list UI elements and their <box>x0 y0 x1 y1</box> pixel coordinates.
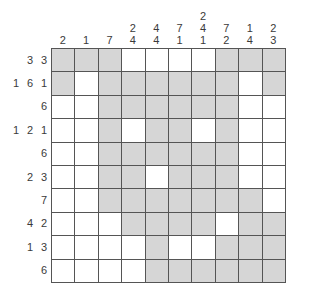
grid-cell-empty[interactable] <box>122 236 145 259</box>
grid-cell-empty[interactable] <box>263 119 286 142</box>
grid-cell-empty[interactable] <box>52 166 75 189</box>
grid-cell-filled[interactable] <box>216 49 239 72</box>
grid-cell-filled[interactable] <box>192 143 215 166</box>
grid-cell-empty[interactable] <box>75 166 98 189</box>
grid-cell-filled[interactable] <box>192 72 215 95</box>
grid-cell-empty[interactable] <box>192 119 215 142</box>
grid-cell-empty[interactable] <box>75 96 98 119</box>
grid-cell-empty[interactable] <box>75 189 98 212</box>
grid-cell-filled[interactable] <box>146 236 169 259</box>
grid-cell-filled[interactable] <box>239 49 262 72</box>
grid-cell-empty[interactable] <box>75 236 98 259</box>
grid-cell-filled[interactable] <box>192 189 215 212</box>
grid-cell-filled[interactable] <box>146 119 169 142</box>
grid-cell-filled[interactable] <box>216 236 239 259</box>
grid-cell-filled[interactable] <box>99 72 122 95</box>
grid-cell-empty[interactable] <box>52 236 75 259</box>
grid-cell-filled[interactable] <box>122 143 145 166</box>
grid-cell-filled[interactable] <box>216 143 239 166</box>
grid-cell-filled[interactable] <box>169 119 192 142</box>
grid-cell-empty[interactable] <box>169 236 192 259</box>
grid-cell-filled[interactable] <box>263 260 286 283</box>
grid-cell-empty[interactable] <box>239 72 262 95</box>
grid-cell-filled[interactable] <box>192 166 215 189</box>
grid-cell-filled[interactable] <box>169 166 192 189</box>
grid-cell-filled[interactable] <box>216 119 239 142</box>
grid-cell-filled[interactable] <box>146 189 169 212</box>
grid-cell-filled[interactable] <box>122 96 145 119</box>
grid-cell-empty[interactable] <box>99 260 122 283</box>
grid-cell-empty[interactable] <box>52 260 75 283</box>
grid-cell-empty[interactable] <box>52 213 75 236</box>
grid-cell-filled[interactable] <box>122 213 145 236</box>
grid-cell-filled[interactable] <box>263 213 286 236</box>
grid-cell-empty[interactable] <box>75 143 98 166</box>
grid-cell-filled[interactable] <box>146 96 169 119</box>
grid-cell-empty[interactable] <box>52 143 75 166</box>
grid-cell-filled[interactable] <box>122 166 145 189</box>
grid-cell-empty[interactable] <box>99 236 122 259</box>
grid-cell-empty[interactable] <box>122 49 145 72</box>
grid-cell-empty[interactable] <box>192 49 215 72</box>
nonogram-grid[interactable] <box>51 48 286 283</box>
grid-cell-empty[interactable] <box>263 96 286 119</box>
grid-cell-empty[interactable] <box>52 119 75 142</box>
grid-cell-empty[interactable] <box>75 72 98 95</box>
grid-cell-empty[interactable] <box>99 213 122 236</box>
grid-cell-filled[interactable] <box>263 72 286 95</box>
grid-cell-empty[interactable] <box>239 119 262 142</box>
grid-cell-filled[interactable] <box>146 72 169 95</box>
grid-cell-filled[interactable] <box>263 236 286 259</box>
grid-cell-filled[interactable] <box>169 260 192 283</box>
grid-cell-filled[interactable] <box>239 213 262 236</box>
grid-cell-filled[interactable] <box>239 189 262 212</box>
grid-cell-filled[interactable] <box>239 260 262 283</box>
grid-cell-empty[interactable] <box>239 166 262 189</box>
grid-cell-filled[interactable] <box>169 189 192 212</box>
grid-cell-filled[interactable] <box>216 96 239 119</box>
grid-cell-filled[interactable] <box>192 260 215 283</box>
grid-cell-filled[interactable] <box>52 72 75 95</box>
grid-cell-filled[interactable] <box>99 166 122 189</box>
grid-cell-empty[interactable] <box>75 213 98 236</box>
grid-cell-empty[interactable] <box>52 96 75 119</box>
grid-cell-filled[interactable] <box>216 72 239 95</box>
grid-cell-filled[interactable] <box>146 143 169 166</box>
grid-cell-filled[interactable] <box>216 189 239 212</box>
grid-cell-empty[interactable] <box>263 189 286 212</box>
grid-cell-filled[interactable] <box>169 213 192 236</box>
grid-cell-empty[interactable] <box>75 260 98 283</box>
grid-cell-filled[interactable] <box>216 260 239 283</box>
grid-cell-empty[interactable] <box>239 96 262 119</box>
grid-cell-empty[interactable] <box>192 236 215 259</box>
grid-cell-filled[interactable] <box>122 189 145 212</box>
grid-cell-filled[interactable] <box>169 96 192 119</box>
grid-cell-filled[interactable] <box>216 166 239 189</box>
grid-cell-filled[interactable] <box>52 49 75 72</box>
grid-cell-filled[interactable] <box>169 72 192 95</box>
grid-cell-filled[interactable] <box>192 96 215 119</box>
grid-cell-empty[interactable] <box>216 213 239 236</box>
grid-cell-filled[interactable] <box>146 260 169 283</box>
grid-cell-filled[interactable] <box>99 119 122 142</box>
grid-cell-filled[interactable] <box>263 49 286 72</box>
grid-cell-empty[interactable] <box>75 119 98 142</box>
grid-cell-filled[interactable] <box>75 49 98 72</box>
grid-cell-filled[interactable] <box>169 143 192 166</box>
grid-cell-empty[interactable] <box>263 166 286 189</box>
grid-cell-empty[interactable] <box>169 49 192 72</box>
grid-cell-filled[interactable] <box>146 213 169 236</box>
grid-cell-filled[interactable] <box>99 189 122 212</box>
grid-cell-filled[interactable] <box>192 213 215 236</box>
grid-cell-empty[interactable] <box>239 143 262 166</box>
grid-cell-empty[interactable] <box>52 189 75 212</box>
grid-cell-empty[interactable] <box>122 119 145 142</box>
grid-cell-filled[interactable] <box>239 236 262 259</box>
grid-cell-empty[interactable] <box>122 260 145 283</box>
grid-cell-filled[interactable] <box>99 49 122 72</box>
grid-cell-empty[interactable] <box>263 143 286 166</box>
grid-cell-filled[interactable] <box>122 72 145 95</box>
grid-cell-filled[interactable] <box>99 96 122 119</box>
grid-cell-filled[interactable] <box>99 143 122 166</box>
grid-cell-empty[interactable] <box>146 49 169 72</box>
